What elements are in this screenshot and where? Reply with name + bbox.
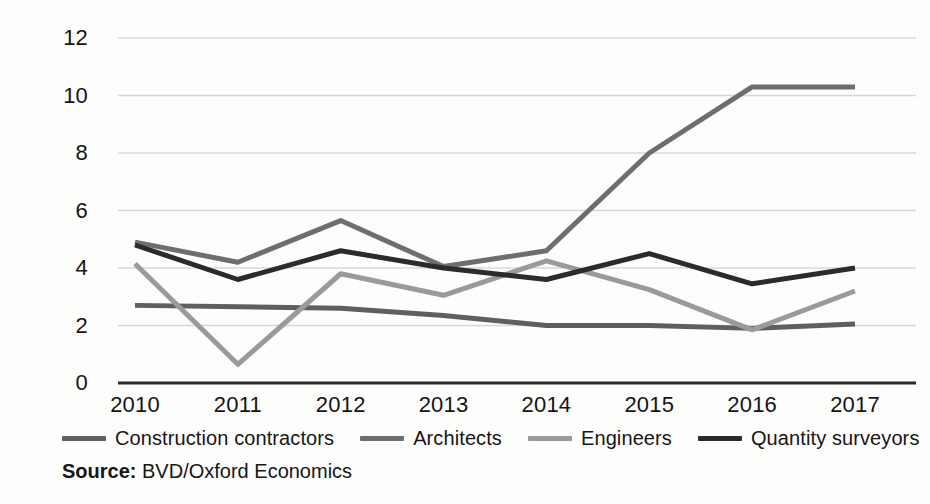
x-tick-label: 2011 xyxy=(183,392,293,418)
legend-swatch-icon xyxy=(62,436,106,441)
legend-swatch-icon xyxy=(528,436,572,441)
x-tick-label: 2013 xyxy=(389,392,499,418)
y-tick-label: 6 xyxy=(28,198,88,224)
gridlines xyxy=(118,38,916,326)
legend-item-1[interactable]: Architects xyxy=(360,427,502,450)
source-prefix: Source: xyxy=(62,460,136,482)
x-tick-label: 2017 xyxy=(800,392,910,418)
series-line-1 xyxy=(135,87,855,267)
legend-label: Engineers xyxy=(581,427,672,450)
x-tick-label: 2010 xyxy=(80,392,190,418)
x-tick-label: 2012 xyxy=(286,392,396,418)
source-text: BVD/Oxford Economics xyxy=(142,460,352,482)
y-tick-label: 10 xyxy=(28,83,88,109)
legend-label: Architects xyxy=(413,427,502,450)
legend-label: Construction contractors xyxy=(115,427,334,450)
y-tick-label: 8 xyxy=(28,140,88,166)
x-tick-label: 2014 xyxy=(491,392,601,418)
legend-label: Quantity surveyors xyxy=(751,427,920,450)
y-tick-label: 2 xyxy=(28,313,88,339)
legend-item-2[interactable]: Engineers xyxy=(528,427,672,450)
line-chart: 121086420 201020112012201320142015201620… xyxy=(0,0,930,504)
y-tick-label: 0 xyxy=(28,370,88,396)
y-tick-label: 4 xyxy=(28,255,88,281)
x-tick-label: 2015 xyxy=(594,392,704,418)
legend-item-0[interactable]: Construction contractors xyxy=(62,427,334,450)
series-lines xyxy=(135,87,855,364)
chart-legend: Construction contractorsArchitectsEngine… xyxy=(62,427,930,450)
legend-item-3[interactable]: Quantity surveyors xyxy=(698,427,920,450)
x-tick-label: 2016 xyxy=(697,392,807,418)
y-tick-label: 12 xyxy=(28,25,88,51)
legend-swatch-icon xyxy=(698,436,742,441)
legend-swatch-icon xyxy=(360,436,404,441)
source-note: Source: BVD/Oxford Economics xyxy=(62,460,352,483)
